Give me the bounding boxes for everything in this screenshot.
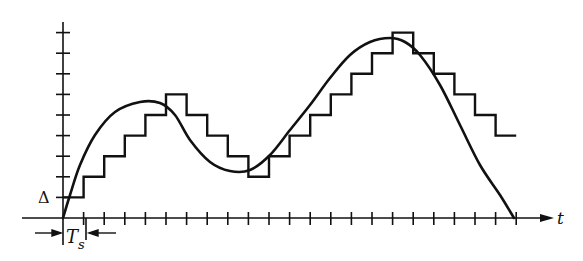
quantization-diagram: Δ Ts t — [0, 0, 583, 261]
ts-label-sub: s — [78, 237, 85, 252]
ts-label: Ts — [66, 226, 85, 252]
arrow-left-icon — [89, 230, 98, 236]
axes — [22, 22, 545, 245]
analog-signal-curve — [63, 38, 514, 218]
quantized-staircase — [63, 33, 516, 198]
x-axis-arrowhead-icon — [540, 214, 554, 222]
delta-label: Δ — [38, 188, 50, 207]
arrow-right-icon — [52, 230, 61, 236]
t-axis-label: t — [557, 208, 564, 228]
